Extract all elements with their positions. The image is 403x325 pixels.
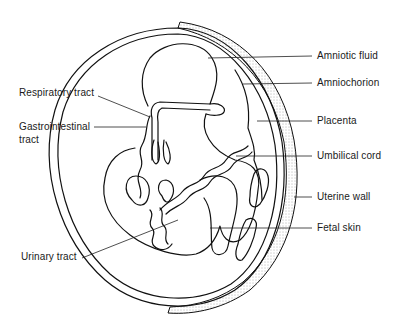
fetal-foot-2 (236, 218, 256, 260)
leader-respiratory-tract (98, 96, 150, 117)
label-uterine-wall: Uterine wall (317, 191, 370, 203)
leader-urinary-tract (82, 220, 178, 258)
label-amniochorion: Amniochorion (317, 77, 379, 89)
lungs (152, 140, 170, 164)
label-gastrointestinal-tract: Gastrointestinal (19, 121, 90, 133)
label-respiratory-tract: Respiratory tract (19, 87, 94, 99)
fetus-diagram (0, 0, 403, 325)
label-placenta: Placenta (317, 115, 357, 127)
respiratory-tract-tube (151, 102, 210, 160)
fetal-leg-thigh (200, 176, 237, 255)
leader-amniotic-fluid (208, 56, 312, 58)
placenta-outline (235, 70, 262, 200)
label-fetal-skin: Fetal skin (317, 222, 361, 234)
urinary-tract-tube (150, 208, 172, 250)
label-amniotic-fluid: Amniotic fluid (317, 50, 378, 62)
bladder-kidney (159, 180, 174, 202)
uterine-wall-band (168, 22, 297, 313)
label-umbilical-cord: Umbilical cord (317, 150, 381, 162)
label-gastrointestinal-tract-line2: tract (19, 134, 39, 146)
leader-amniochorion (243, 83, 312, 84)
label-urinary-tract: Urinary tract (21, 251, 77, 263)
